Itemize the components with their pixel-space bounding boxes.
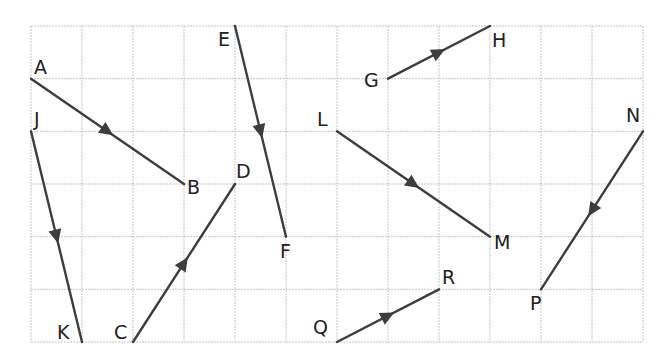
label-d: D bbox=[236, 160, 251, 182]
grid bbox=[31, 26, 643, 342]
label-h: H bbox=[492, 29, 506, 51]
arrowhead-icon bbox=[404, 175, 423, 194]
label-l: L bbox=[317, 108, 328, 130]
label-a: A bbox=[34, 56, 47, 78]
label-m: M bbox=[494, 231, 510, 253]
label-e: E bbox=[218, 28, 230, 50]
label-g: G bbox=[364, 69, 379, 91]
arrowhead-icon bbox=[175, 254, 194, 273]
vector-grid-diagram: A B J K C D E F G H L M Q R N P bbox=[0, 0, 663, 361]
label-n: N bbox=[626, 104, 640, 126]
label-b: B bbox=[187, 176, 200, 198]
arrowhead-icon bbox=[430, 43, 448, 61]
label-j: J bbox=[33, 108, 40, 130]
label-c: C bbox=[114, 321, 127, 343]
label-k: K bbox=[57, 321, 70, 343]
label-q: Q bbox=[313, 316, 328, 338]
arrowhead-icon bbox=[98, 122, 117, 141]
label-r: R bbox=[442, 266, 455, 288]
label-f: F bbox=[280, 240, 291, 262]
label-p: P bbox=[530, 292, 541, 314]
